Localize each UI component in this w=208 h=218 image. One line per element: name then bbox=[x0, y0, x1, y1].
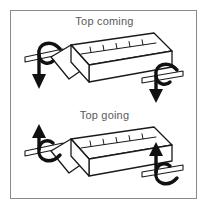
panel-top-going: Top going bbox=[11, 105, 198, 199]
figure-frame: Top coming bbox=[10, 10, 197, 199]
illustration-figure: Top coming bbox=[0, 0, 208, 218]
scene-top-going bbox=[11, 121, 198, 197]
block-body bbox=[51, 33, 172, 82]
caption-top-coming: Top coming bbox=[11, 15, 198, 27]
scene-top-coming bbox=[11, 27, 198, 103]
right-axle-rod bbox=[142, 165, 183, 177]
caption-top-going: Top going bbox=[11, 109, 198, 121]
panel-top-coming: Top coming bbox=[11, 11, 198, 105]
right-axle-rod bbox=[142, 71, 183, 83]
